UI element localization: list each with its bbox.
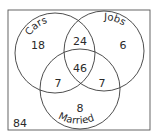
all-three-value: 46 xyxy=(73,62,87,75)
cars-jobs-value: 24 xyxy=(73,35,87,48)
cars-only-value: 18 xyxy=(31,39,45,52)
jobs-married-value: 7 xyxy=(99,77,106,90)
venn-diagram: Cars Jobs Married 18 6 8 24 46 7 7 84 xyxy=(0,0,156,134)
jobs-label: Jobs xyxy=(103,11,128,28)
married-only-value: 8 xyxy=(77,102,84,115)
jobs-only-value: 6 xyxy=(120,39,127,52)
outside-value: 84 xyxy=(13,117,27,130)
cars-married-value: 7 xyxy=(55,77,62,90)
